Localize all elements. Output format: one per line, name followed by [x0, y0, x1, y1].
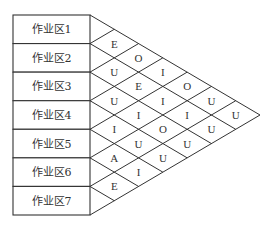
grid-line-down — [90, 72, 211, 143]
area-label-2: 作业区2 — [32, 52, 72, 65]
relationship-code-1-4: I — [161, 66, 165, 78]
grid-line-up — [90, 86, 211, 157]
relationship-code-6-7: E — [111, 180, 118, 192]
area-label-5: 作业区5 — [32, 138, 72, 151]
relationship-code-1-2: E — [111, 38, 118, 50]
area-label-4: 作业区4 — [32, 109, 72, 122]
grid-line-up — [90, 58, 163, 101]
relationship-code-2-3: U — [110, 66, 118, 78]
relationship-code-2-5: I — [161, 95, 165, 107]
relationship-code-4-5: I — [112, 123, 116, 135]
relationship-code-4-7: U — [159, 152, 167, 164]
relationship-chart: 作业区1作业区2作业区3作业区4作业区5作业区6作业区7 EUUIAEOEIUI… — [0, 0, 272, 228]
relationship-code-2-4: E — [135, 80, 142, 92]
relationship-code-3-4: U — [110, 95, 118, 107]
relationship-code-1-6: U — [207, 95, 215, 107]
area-label-3: 作业区3 — [32, 80, 72, 93]
relationship-code-3-6: O — [159, 123, 167, 135]
relationship-code-1-5: O — [183, 80, 191, 92]
relationship-code-1-7: U — [232, 109, 240, 121]
area-label-6: 作业区6 — [32, 166, 72, 179]
relationship-code-3-7: U — [183, 138, 191, 150]
grid-line-down — [90, 129, 163, 172]
relationship-code-5-6: A — [110, 152, 118, 164]
relationship-code-3-5: I — [137, 109, 141, 121]
relationship-code-2-7: U — [207, 123, 215, 135]
relationship-code-4-6: U — [135, 138, 143, 150]
area-label-7: 作业区7 — [32, 195, 72, 208]
relationship-code-2-6: I — [185, 109, 189, 121]
relationship-code-1-3: O — [135, 52, 143, 64]
relationship-code-5-7: I — [137, 166, 141, 178]
area-label-1: 作业区1 — [32, 23, 72, 36]
